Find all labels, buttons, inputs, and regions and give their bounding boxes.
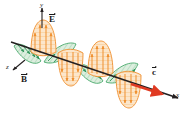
c-velocity-vector-label: c bbox=[152, 66, 156, 77]
figure-canvas: y z x E B c bbox=[0, 0, 185, 115]
em-wave-svg bbox=[0, 0, 185, 115]
b-vector-overarrow-icon bbox=[21, 73, 27, 76]
b-field-vector-label: B bbox=[21, 73, 27, 84]
e-field-vector-label: E bbox=[49, 13, 55, 24]
electric-field-wave bbox=[31, 20, 141, 108]
x-axis-label: x bbox=[176, 92, 179, 99]
z-axis-label: z bbox=[6, 64, 9, 71]
e-lobe bbox=[116, 71, 141, 108]
b-vector-symbol: B bbox=[21, 75, 27, 84]
c-vector-overarrow-icon bbox=[152, 66, 156, 69]
y-axis-label: y bbox=[40, 2, 43, 9]
z-axis-line bbox=[13, 60, 25, 70]
e-vector-symbol: E bbox=[49, 15, 55, 24]
e-lobe bbox=[58, 49, 83, 86]
e-vector-overarrow-icon bbox=[49, 13, 55, 16]
c-vector-symbol: c bbox=[152, 68, 156, 77]
